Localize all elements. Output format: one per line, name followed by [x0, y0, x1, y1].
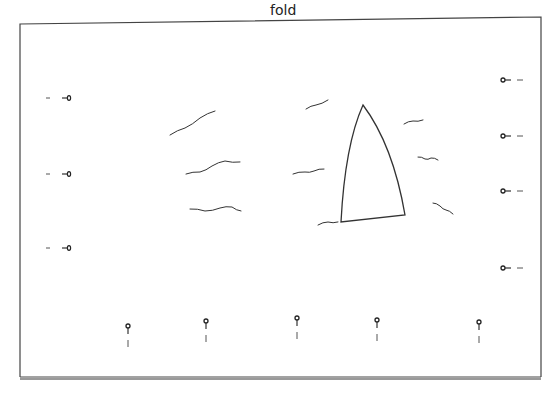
right-pin-mark [501, 78, 523, 82]
left-pin-mark [46, 172, 71, 177]
page-border [20, 17, 541, 379]
right-pin-mark [501, 266, 523, 270]
pin-head-icon [501, 189, 505, 193]
pin-head-icon [477, 320, 481, 324]
pin-head-icon [501, 266, 505, 270]
pin-head-icon [67, 172, 70, 177]
wave-line [170, 111, 215, 135]
pin-head-icon [126, 324, 130, 328]
sail-triangle [341, 105, 405, 222]
pin-head-icon [204, 319, 208, 323]
waves [170, 100, 453, 225]
bottom-pin-mark [375, 318, 379, 341]
wave-line [306, 100, 328, 109]
wave-line [318, 222, 338, 225]
wave-line [190, 207, 241, 211]
sail-shape [341, 105, 405, 222]
pin-head-icon [501, 78, 505, 82]
bottom-pin-mark [126, 324, 130, 347]
border-outline [20, 17, 541, 377]
bottom-pin-mark [204, 319, 208, 342]
left-pin-mark [46, 246, 71, 251]
wave-line [186, 161, 240, 174]
left-pin-mark [46, 96, 71, 101]
bottom-pin-mark [295, 316, 299, 339]
wave-line [293, 169, 324, 174]
right-pin-mark [501, 134, 523, 138]
wave-line [404, 120, 423, 124]
pin-head-icon [295, 316, 299, 320]
wave-line [418, 157, 438, 160]
wave-line [433, 203, 453, 214]
pin-head-icon [375, 318, 379, 322]
fold-label: fold [270, 2, 296, 18]
bottom-pin-mark [477, 320, 481, 343]
diagram-canvas [0, 0, 560, 397]
pin-head-icon [67, 246, 70, 251]
pin-head-icon [67, 96, 70, 101]
right-pin-mark [501, 189, 523, 193]
pin-head-icon [501, 134, 505, 138]
